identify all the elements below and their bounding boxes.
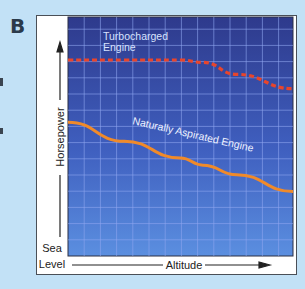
x-origin-label-line2: Level [39, 258, 65, 270]
series-turbocharged-label-line2: Engine [103, 41, 136, 53]
x-axis-label: Altitude [166, 259, 203, 271]
x-origin-label-line1: Sea [42, 242, 62, 254]
y-axis-label: Horsepower [54, 107, 66, 167]
chart: Horsepower Sea Level Altitude Turbocharg… [0, 0, 305, 289]
